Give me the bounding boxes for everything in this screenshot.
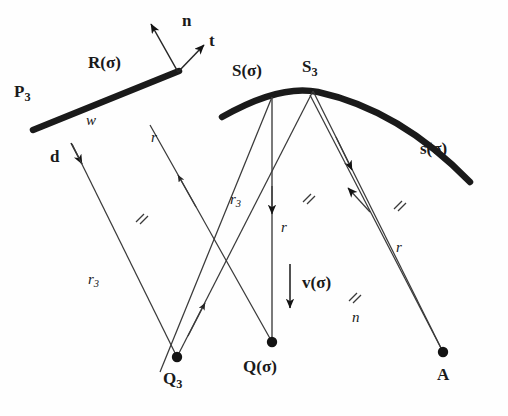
label-tangent-vector-t: t (209, 32, 215, 49)
label-r-left: r (151, 130, 157, 145)
label-normal-vector-n: n (182, 12, 191, 29)
label-r3-left: r3 (88, 272, 99, 290)
ray-r-left-arrowhead (178, 175, 196, 207)
label-r3-mid-subscript: 3 (236, 198, 241, 209)
label-w: w (86, 113, 96, 128)
label-S3-subscript: 3 (311, 65, 317, 79)
normal-vector-n (151, 24, 178, 72)
ray-q3-arrowhead (188, 303, 205, 336)
label-R-sigma: R(σ) (88, 54, 121, 71)
label-S3: S3 (302, 58, 318, 78)
label-P3-subscript: 3 (24, 90, 30, 104)
diagram-canvas: n t R(σ) P3 w d r r3 S(σ) S3 s(σ) r3 r v… (0, 0, 508, 416)
curved-surface-line (222, 90, 470, 182)
ray-s3-to-a (313, 91, 443, 352)
point-dot-a (438, 347, 448, 357)
label-S-sigma: S(σ) (232, 62, 262, 79)
label-n-italic: n (352, 310, 360, 325)
label-r-right: r (396, 240, 402, 255)
label-r3-left-subscript: 3 (94, 278, 99, 289)
label-r-mid: r (281, 220, 287, 235)
label-Q3-subscript: 3 (176, 377, 182, 391)
label-v-sigma: v(σ) (302, 274, 331, 291)
ray-r3-mid (160, 97, 272, 372)
tick-lower (349, 293, 361, 303)
tangent-vector-t (178, 45, 204, 72)
label-Q3-base: Q (163, 369, 176, 388)
ray-a-to-s-sigma (310, 95, 443, 352)
tick-right (394, 201, 406, 211)
label-P3: P3 (14, 83, 31, 103)
label-d: d (50, 148, 59, 165)
ray-r3-left (72, 144, 177, 357)
ray-s3-to-a-arrowhead (336, 137, 352, 170)
label-A: A (437, 366, 449, 383)
label-P3-base: P (14, 82, 24, 101)
tick-mid (303, 194, 315, 204)
point-dot-q3 (172, 352, 182, 362)
ray-r-left-incoming (150, 125, 272, 342)
label-Q-sigma: Q(σ) (243, 358, 277, 375)
label-r3-mid: r3 (230, 192, 241, 210)
label-Q3: Q3 (163, 370, 182, 390)
point-dot-q-sigma (267, 337, 277, 347)
flat-surface-line (33, 71, 179, 130)
tick-left (136, 214, 148, 224)
label-s-sigma: s(σ) (420, 140, 447, 157)
